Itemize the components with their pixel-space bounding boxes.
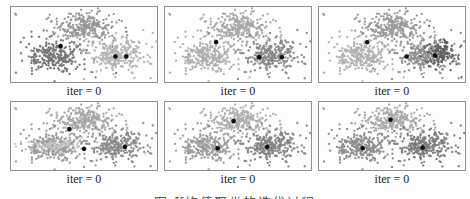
scatter-plot-frame bbox=[318, 6, 466, 83]
iter-label: iter = 0 bbox=[318, 172, 466, 187]
iter-label: iter = 0 bbox=[10, 84, 158, 99]
scatter-canvas bbox=[165, 7, 311, 82]
scatter-canvas bbox=[11, 7, 157, 82]
figure-caption-clipped: 图 K均值聚类的迭代过程 bbox=[0, 192, 470, 199]
iter-label: iter = 0 bbox=[318, 84, 466, 99]
scatter-canvas bbox=[11, 102, 157, 170]
scatter-canvas bbox=[165, 102, 311, 170]
scatter-panel-2: iter = 0 bbox=[164, 6, 312, 99]
scatter-plot-frame bbox=[10, 101, 158, 171]
scatter-panel-3: iter = 0 bbox=[318, 6, 466, 99]
scatter-plot-frame bbox=[10, 6, 158, 83]
kmeans-figure: iter = 0 iter = 0 iter = 0 iter = 0 iter… bbox=[0, 0, 470, 199]
scatter-plot-frame bbox=[164, 101, 312, 171]
scatter-plot-frame bbox=[318, 101, 466, 171]
iter-label: iter = 0 bbox=[10, 172, 158, 187]
scatter-canvas bbox=[319, 102, 465, 170]
iter-label: iter = 0 bbox=[164, 84, 312, 99]
scatter-panel-5: iter = 0 bbox=[164, 101, 312, 187]
scatter-panel-4: iter = 0 bbox=[10, 101, 158, 187]
scatter-panel-1: iter = 0 bbox=[10, 6, 158, 99]
iter-label: iter = 0 bbox=[164, 172, 312, 187]
scatter-canvas bbox=[319, 7, 465, 82]
scatter-plot-frame bbox=[164, 6, 312, 83]
scatter-panel-6: iter = 0 bbox=[318, 101, 466, 187]
